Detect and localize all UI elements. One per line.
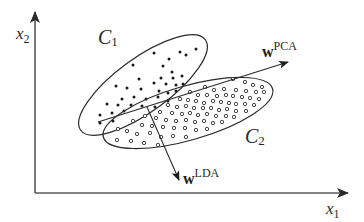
data-point — [215, 94, 218, 97]
data-point — [143, 114, 146, 117]
data-point — [164, 118, 167, 121]
data-point — [175, 105, 178, 108]
data-point — [225, 107, 228, 110]
data-point — [184, 104, 187, 107]
data-point — [162, 65, 165, 68]
data-point — [172, 126, 175, 129]
data-point — [121, 98, 124, 101]
data-point — [192, 106, 195, 109]
data-point — [220, 120, 223, 123]
data-point — [211, 99, 214, 102]
data-point — [133, 96, 136, 99]
data-point — [257, 97, 260, 100]
data-point — [115, 85, 118, 88]
data-point — [165, 83, 168, 86]
data-point — [194, 128, 197, 131]
data-point — [185, 54, 188, 57]
data-point — [170, 111, 173, 114]
data-point — [111, 112, 114, 115]
data-point — [138, 78, 141, 81]
data-point — [158, 90, 161, 93]
pca-vs-lda-diagram: x2 x1 C1 C2 wPCA wLDA — [0, 0, 364, 222]
data-point — [135, 132, 138, 135]
data-point — [194, 99, 197, 102]
pca-vector-label: wPCA — [262, 39, 297, 60]
data-point — [160, 77, 163, 80]
data-point — [251, 83, 254, 86]
data-point — [125, 129, 128, 132]
data-point — [182, 83, 185, 86]
data-point — [148, 131, 151, 134]
data-point — [142, 141, 145, 144]
data-point — [167, 92, 170, 95]
data-point — [99, 114, 102, 117]
data-point — [175, 90, 178, 93]
data-point — [196, 113, 199, 116]
data-point — [140, 123, 143, 126]
axes: x2 x1 — [15, 12, 348, 221]
data-point — [227, 101, 230, 104]
data-point — [153, 82, 156, 85]
data-point — [262, 90, 265, 93]
data-point — [211, 121, 214, 124]
class-c2-label: C2 — [245, 125, 265, 148]
data-point — [205, 112, 208, 115]
class-c1-label: C1 — [98, 26, 118, 49]
data-point — [232, 115, 235, 118]
data-point — [231, 94, 234, 97]
data-point — [217, 108, 220, 111]
data-point — [175, 84, 178, 87]
data-point — [126, 87, 129, 90]
data-point — [158, 110, 161, 113]
data-point — [188, 111, 191, 114]
data-point — [140, 88, 143, 91]
data-point — [193, 120, 196, 123]
data-point — [141, 105, 144, 108]
data-point — [184, 118, 187, 121]
data-point — [181, 75, 184, 78]
data-point — [166, 103, 169, 106]
data-point — [202, 119, 205, 122]
class-c1-ellipse — [65, 18, 221, 152]
data-point — [248, 96, 251, 99]
data-point — [219, 100, 222, 103]
data-point — [117, 104, 120, 107]
data-point — [209, 106, 212, 109]
class-c1-cluster: C1 — [65, 18, 221, 152]
data-point — [252, 103, 255, 106]
y-axis-label: x2 — [15, 24, 30, 46]
data-point — [179, 51, 182, 54]
data-point — [240, 95, 243, 98]
data-point — [161, 125, 164, 128]
data-point — [116, 127, 119, 130]
data-point — [186, 98, 189, 101]
data-point — [196, 93, 199, 96]
data-point — [178, 97, 181, 100]
data-point — [234, 109, 237, 112]
data-point — [234, 102, 237, 105]
data-point — [202, 101, 205, 104]
data-point — [174, 119, 177, 122]
data-point — [201, 106, 204, 109]
data-point — [154, 116, 157, 119]
data-point — [214, 114, 217, 117]
data-point — [180, 112, 183, 115]
data-point — [183, 126, 186, 129]
data-point — [150, 124, 153, 127]
pca-direction-vector: wPCA — [98, 39, 297, 122]
data-point — [244, 89, 247, 92]
class-c2-points — [115, 77, 265, 146]
class-c2-cluster: C2 — [96, 63, 280, 163]
data-point — [205, 93, 208, 96]
data-point — [132, 64, 135, 67]
data-point — [129, 139, 132, 142]
data-point — [156, 143, 159, 146]
data-point — [212, 88, 215, 91]
data-point — [195, 48, 198, 51]
data-point — [184, 135, 187, 138]
data-point — [106, 103, 109, 106]
data-point — [153, 52, 156, 55]
lda-arrow — [147, 107, 179, 180]
data-point — [115, 138, 118, 141]
lda-vector-label: wLDA — [183, 166, 220, 187]
